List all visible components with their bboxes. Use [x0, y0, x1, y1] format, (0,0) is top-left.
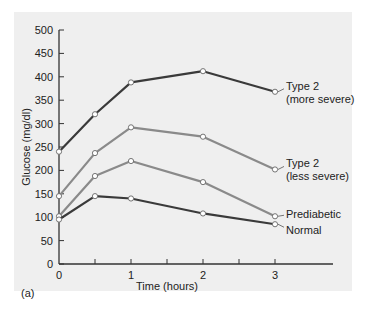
x-tick-label: 1 — [128, 269, 134, 281]
y-tick-label: 0 — [47, 258, 53, 270]
y-tick-label: 450 — [35, 47, 53, 59]
data-point-marker — [92, 194, 97, 199]
series-label: Prediabetic — [286, 208, 342, 220]
y-tick-label: 500 — [35, 24, 53, 36]
panel-label: (a) — [21, 287, 34, 299]
series-line — [59, 161, 275, 216]
series-type-2-more-severe — [56, 69, 277, 155]
y-tick-label: 50 — [41, 235, 53, 247]
label-leader-line — [278, 215, 284, 216]
data-point-marker — [128, 158, 133, 163]
data-point-marker — [272, 222, 277, 227]
data-point-marker — [56, 149, 61, 154]
label-leader-line — [278, 224, 284, 227]
series-line — [59, 127, 275, 196]
data-point-marker — [200, 134, 205, 139]
data-point-marker — [200, 211, 205, 216]
series-label: Type 2 — [286, 80, 319, 92]
data-point-marker — [92, 150, 97, 155]
y-tick-label: 250 — [35, 141, 53, 153]
data-point-marker — [272, 89, 277, 94]
series-normal — [56, 194, 277, 227]
data-point-marker — [200, 180, 205, 185]
y-tick-label: 100 — [35, 211, 53, 223]
x-axis-title: Time (hours) — [136, 280, 198, 292]
data-point-marker — [272, 214, 277, 219]
glucose-line-chart: 050100150200250300350400450500 0123 Type… — [0, 0, 369, 313]
data-point-marker — [128, 196, 133, 201]
x-tick-label: 3 — [272, 269, 278, 281]
y-axis: 050100150200250300350400450500 — [35, 24, 64, 270]
data-point-marker — [92, 112, 97, 117]
series-prediabetic — [56, 158, 277, 218]
y-tick-label: 300 — [35, 118, 53, 130]
y-tick-label: 150 — [35, 188, 53, 200]
series-label: Normal — [286, 224, 321, 236]
y-axis-title: Glucose (mg/dl) — [20, 108, 32, 186]
data-point-marker — [128, 125, 133, 130]
series-line — [59, 71, 275, 151]
x-tick-label: 0 — [56, 269, 62, 281]
data-point-marker — [56, 194, 61, 199]
label-leader-line — [278, 89, 284, 92]
x-tick-label: 2 — [200, 269, 206, 281]
data-point-marker — [200, 69, 205, 74]
data-point-marker — [272, 167, 277, 172]
y-tick-label: 400 — [35, 71, 53, 83]
series-label: (more severe) — [286, 93, 354, 105]
y-tick-label: 350 — [35, 94, 53, 106]
legend-labels: Type 2(more severe)Type 2(less severe)Pr… — [278, 80, 354, 236]
label-leader-line — [278, 166, 284, 169]
series-type-2-less-severe — [56, 125, 277, 199]
x-axis: 0123 — [56, 259, 333, 281]
series-layer — [56, 69, 277, 227]
data-point-marker — [128, 80, 133, 85]
data-point-marker — [92, 173, 97, 178]
series-label: Type 2 — [286, 157, 319, 169]
series-label: (less severe) — [286, 170, 349, 182]
data-point-marker — [56, 217, 61, 222]
y-tick-label: 200 — [35, 164, 53, 176]
